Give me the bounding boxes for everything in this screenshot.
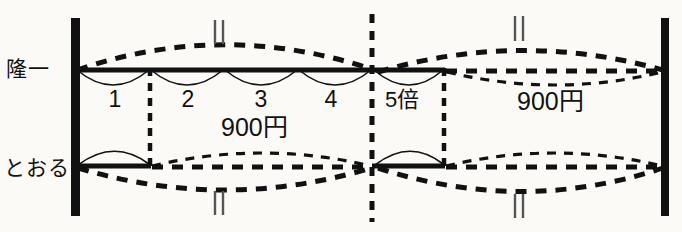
bar-right: [661, 18, 669, 216]
bottom-unit-arc-2: [375, 151, 443, 165]
bar-left: [71, 18, 80, 216]
tick-bottom-right-icon: [515, 194, 523, 218]
segment-number-2: 2: [168, 88, 208, 111]
tick-bottom-left-icon: [215, 191, 223, 215]
tape-diagram-svg: [0, 0, 682, 232]
top-left-dashed-arc: [77, 45, 371, 70]
bottom-left-dashed-arc-lower: [78, 168, 371, 190]
price-label-right: 900円: [517, 89, 584, 114]
bottom-right-dashed-arc-upper: [446, 153, 662, 166]
segment-number-1: 1: [95, 88, 135, 111]
bottom-left-dashed-arc-upper: [152, 153, 371, 166]
bottom-right-dashed-arc-lower: [378, 168, 663, 192]
figure-canvas: 隆一 とおる 1 2 3 4 5倍 900円 900円: [0, 0, 682, 232]
person-label-ryuichi: 隆一: [6, 58, 50, 79]
tick-top-left-icon: [215, 20, 223, 44]
tick-top-right-icon: [515, 16, 523, 41]
bottom-unit-arc-1: [78, 151, 149, 165]
segment-number-4: 4: [311, 88, 351, 111]
top-right-dashed-arc-lower: [447, 72, 662, 85]
person-label-tooru: とおる: [4, 157, 70, 178]
segment-number-3: 3: [241, 88, 281, 111]
multiplier-label: 5倍: [385, 89, 419, 111]
price-label-left: 900円: [221, 115, 288, 140]
